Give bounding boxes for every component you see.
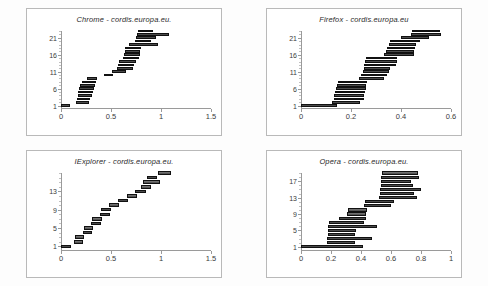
y-tick-iexplorer [58, 228, 61, 229]
y-minor-tick-chrome [59, 41, 61, 42]
y-minor-tick-iexplorer [59, 237, 61, 238]
y-minor-tick-chrome [59, 68, 61, 69]
request-bar [334, 98, 364, 101]
y-tick-opera [298, 230, 301, 231]
chart-panel-chrome: Chrome - cordis.europa.eu. 00.511.516111… [26, 8, 222, 136]
y-minor-tick-chrome [59, 58, 61, 59]
x-tick-label-chrome: 0 [59, 112, 63, 121]
y-minor-tick-chrome [59, 95, 61, 96]
request-bar [104, 74, 113, 77]
request-bar [118, 64, 134, 67]
x-tick-label-opera: 0 [299, 254, 303, 263]
y-minor-tick-iexplorer [59, 205, 61, 206]
request-bar [92, 217, 102, 221]
y-minor-tick-chrome [59, 31, 61, 32]
y-minor-tick-chrome [59, 102, 61, 103]
y-tick-label-chrome: 1 [53, 102, 57, 109]
request-bar [61, 104, 70, 107]
y-minor-tick-chrome [59, 75, 61, 76]
y-minor-tick-iexplorer [59, 233, 61, 234]
y-minor-tick-firefox [299, 48, 301, 49]
request-bar [364, 204, 391, 207]
x-tick-label-firefox: 0.4 [396, 112, 406, 121]
y-tick-label-opera: 13 [289, 194, 297, 201]
browser-waterfall-figure: Chrome - cordis.europa.eu. 00.511.516111… [0, 0, 488, 286]
request-bar [361, 74, 387, 77]
request-bar [381, 180, 411, 183]
request-bar [411, 33, 441, 36]
x-tick-label-iexplorer: 1 [159, 254, 163, 263]
y-tick-label-firefox: 16 [289, 51, 297, 58]
y-minor-tick-chrome [59, 99, 61, 100]
y-minor-tick-firefox [299, 85, 301, 86]
y-minor-tick-firefox [299, 51, 301, 52]
y-tick-iexplorer [58, 191, 61, 192]
request-bar [118, 199, 128, 203]
request-bar [78, 94, 92, 97]
request-bar [347, 212, 366, 215]
request-bar [328, 229, 356, 232]
request-bar [109, 203, 119, 207]
request-bar [125, 50, 140, 53]
y-minor-tick-firefox [299, 68, 301, 69]
request-bar [339, 217, 365, 220]
request-bar [101, 208, 111, 212]
y-tick-label-iexplorer: 13 [49, 188, 57, 195]
y-minor-tick-iexplorer [59, 242, 61, 243]
y-tick-label-opera: 17 [289, 178, 297, 185]
request-bar [61, 245, 71, 249]
request-bar [401, 36, 429, 39]
y-tick-label-chrome: 11 [50, 68, 57, 75]
request-bar [380, 188, 421, 191]
request-bar [79, 87, 94, 90]
request-bar [365, 60, 397, 63]
request-bar [76, 101, 89, 104]
panel-title-chrome: Chrome - cordis.europa.eu. [27, 15, 221, 24]
request-bar [328, 233, 355, 236]
y-minor-tick-firefox [299, 34, 301, 35]
y-tick-opera [298, 214, 301, 215]
request-bar [147, 176, 157, 180]
y-minor-tick-opera [299, 239, 301, 240]
x-axis-opera [301, 250, 451, 251]
y-minor-tick-opera [299, 206, 301, 207]
plot-area-iexplorer: 00.511.515913 [61, 173, 211, 251]
request-bar [384, 53, 414, 56]
y-minor-tick-iexplorer [59, 182, 61, 183]
request-bar [327, 237, 371, 240]
request-bar [338, 81, 367, 84]
y-minor-tick-opera [299, 243, 301, 244]
y-minor-tick-chrome [59, 92, 61, 93]
request-bar [380, 192, 415, 195]
y-minor-tick-opera [299, 185, 301, 186]
y-tick-chrome [58, 89, 61, 90]
request-bar [83, 231, 92, 235]
y-axis-iexplorer [61, 173, 62, 251]
chart-panel-iexplorer: IExplorer - cordis.europa.eu. 00.511.515… [26, 150, 222, 278]
x-tick-label-opera: 0.8 [416, 254, 426, 263]
request-bar [117, 67, 133, 70]
request-bar [381, 184, 413, 187]
y-tick-label-firefox: 6 [293, 85, 297, 92]
panel-title-opera: Opera - cordis.europa.eu. [267, 157, 461, 166]
y-minor-tick-iexplorer [59, 178, 61, 179]
y-minor-tick-firefox [299, 62, 301, 63]
x-tick-label-opera: 0.4 [356, 254, 366, 263]
y-minor-tick-opera [299, 226, 301, 227]
y-tick-opera [298, 198, 301, 199]
y-minor-tick-iexplorer [59, 196, 61, 197]
y-minor-tick-firefox [299, 95, 301, 96]
y-minor-tick-firefox [299, 92, 301, 93]
y-minor-tick-chrome [59, 62, 61, 63]
request-bar [80, 84, 95, 87]
request-bar [138, 30, 153, 33]
y-tick-label-opera: 5 [293, 227, 297, 234]
request-bar [137, 33, 169, 36]
panel-title-firefox: Firefox - cordis.europa.eu [267, 15, 461, 24]
y-minor-tick-chrome [59, 85, 61, 86]
y-axis-chrome [61, 31, 62, 109]
request-bar [127, 194, 137, 198]
request-bar [100, 213, 110, 217]
request-bar [74, 240, 83, 244]
plot-area-firefox: 00.20.40.616111621 [301, 31, 451, 109]
